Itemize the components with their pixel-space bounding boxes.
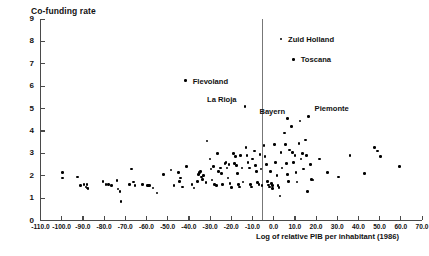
- data-point: [305, 154, 308, 157]
- data-point: [152, 187, 155, 190]
- data-point: [276, 174, 279, 177]
- data-point: [177, 171, 180, 174]
- zero-reference-line: [262, 19, 263, 220]
- data-point: [274, 161, 277, 164]
- x-axis-tick: [82, 216, 83, 220]
- data-point-labeled: [280, 38, 283, 41]
- data-point: [373, 146, 376, 149]
- y-axis-tick: [41, 41, 45, 42]
- x-axis-tick: [400, 216, 401, 220]
- data-point: [312, 179, 315, 182]
- data-point-label: La Rioja: [207, 95, 237, 104]
- x-axis-tick: [379, 216, 380, 220]
- x-axis-tick: [104, 216, 105, 220]
- data-point: [211, 179, 214, 182]
- data-point: [221, 183, 224, 186]
- data-point: [263, 144, 266, 147]
- data-point: [178, 180, 181, 183]
- data-point: [79, 184, 82, 187]
- data-point: [235, 164, 238, 167]
- data-point: [181, 186, 184, 189]
- data-point: [156, 192, 159, 195]
- data-point-labeled: [307, 115, 310, 118]
- data-point: [220, 172, 223, 175]
- y-axis-line: [40, 19, 41, 221]
- data-point: [170, 169, 173, 172]
- data-point: [281, 167, 284, 170]
- data-point: [306, 190, 309, 193]
- data-point: [128, 183, 131, 186]
- y-axis-tick-label: 8: [18, 36, 34, 45]
- x-axis-tick: [210, 216, 211, 220]
- data-point: [141, 183, 144, 186]
- data-point: [379, 155, 382, 158]
- data-point: [292, 161, 295, 164]
- data-point: [120, 200, 123, 203]
- data-point: [76, 176, 79, 179]
- data-point: [196, 180, 199, 183]
- data-point: [398, 165, 401, 168]
- y-axis-tick: [41, 108, 45, 109]
- x-axis-tick: [231, 216, 232, 220]
- data-point-label: Piemonte: [315, 104, 349, 113]
- x-axis-tick: [294, 216, 295, 220]
- data-point: [130, 168, 133, 171]
- data-point: [185, 165, 188, 168]
- data-point: [210, 168, 213, 171]
- y-axis-tick: [41, 153, 45, 154]
- data-point: [234, 155, 237, 158]
- data-point: [269, 170, 272, 173]
- data-point: [301, 152, 304, 155]
- data-point: [245, 146, 248, 149]
- scatter-chart: Co-funding rate 0123456789 -110.0-100.0-…: [0, 0, 429, 256]
- data-point: [236, 172, 239, 175]
- y-axis-tick: [41, 86, 45, 87]
- data-point: [191, 183, 194, 186]
- y-axis-tick: [41, 19, 45, 20]
- x-axis-tick: [125, 216, 126, 220]
- data-point: [61, 171, 64, 174]
- data-point: [302, 168, 305, 171]
- data-point: [199, 170, 202, 173]
- data-point: [119, 190, 122, 193]
- data-point: [266, 180, 269, 183]
- data-point: [250, 186, 253, 189]
- x-axis-tick: [146, 216, 147, 220]
- y-axis-tick: [41, 130, 45, 131]
- data-point: [253, 150, 256, 153]
- data-point: [294, 154, 297, 157]
- data-point: [286, 173, 289, 176]
- y-axis-tick-label: 9: [18, 14, 34, 23]
- data-point-labeled: [292, 58, 295, 61]
- x-axis-tick: [358, 216, 359, 220]
- data-point: [265, 163, 268, 166]
- y-axis-tick: [41, 198, 45, 199]
- data-point: [102, 180, 105, 183]
- data-point: [255, 170, 258, 173]
- data-point: [110, 184, 113, 187]
- data-point: [246, 154, 249, 157]
- data-point: [264, 155, 267, 158]
- y-axis-tick-label: 2: [18, 171, 34, 180]
- y-axis-title: Co-funding rate: [31, 6, 96, 16]
- data-point: [148, 184, 151, 187]
- data-point: [247, 161, 250, 164]
- y-axis-tick: [41, 220, 45, 221]
- data-point: [309, 163, 312, 166]
- data-point-label: Toscana: [301, 55, 331, 64]
- y-axis-tick: [41, 175, 45, 176]
- data-point: [295, 171, 298, 174]
- data-point: [173, 184, 176, 187]
- data-point: [202, 174, 205, 177]
- data-point: [61, 177, 64, 180]
- data-point: [228, 163, 231, 166]
- data-point: [273, 143, 276, 146]
- x-axis-tick: [40, 216, 41, 220]
- y-axis-tick: [41, 63, 45, 64]
- data-point: [206, 140, 209, 143]
- data-point: [238, 186, 241, 189]
- data-point: [278, 186, 281, 189]
- data-point-labeled: [286, 117, 289, 120]
- data-point: [226, 167, 229, 170]
- data-point: [229, 182, 232, 185]
